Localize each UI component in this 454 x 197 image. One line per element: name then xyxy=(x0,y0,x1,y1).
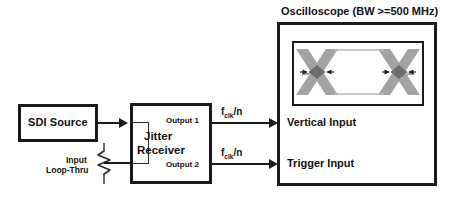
oscilloscope-display xyxy=(292,41,424,106)
jitter-receiver-label-line1: Jitter xyxy=(144,131,172,143)
oscilloscope-vertical-input-label: Vertical Input xyxy=(287,117,356,128)
oscilloscope-title: Oscilloscope (BW >=500 MHz) xyxy=(281,6,438,17)
sdi-source-label: SDI Source xyxy=(28,117,88,128)
jitter-receiver-label-line2: Receiver xyxy=(137,145,185,157)
receiver-loop-thru-bracket xyxy=(133,122,149,164)
oscilloscope-trigger-input-label: Trigger Input xyxy=(287,158,354,169)
eye-annotation-left: jitter xyxy=(302,73,309,76)
wire-output1-to-vertical xyxy=(212,122,274,124)
loop-thru-label-line2: Loop-Thru xyxy=(46,166,88,175)
eye-annotation-right: jitter xyxy=(407,73,414,76)
fclk-divisor: /n xyxy=(233,147,242,158)
receiver-output2-label: Output 2 xyxy=(166,161,199,169)
resistor-icon xyxy=(96,142,112,186)
arrowhead-source-to-receiver xyxy=(119,118,128,128)
fclk-divisor: /n xyxy=(233,106,242,117)
signal-label-trigger: fclk/n xyxy=(221,147,242,160)
wire-source-to-receiver xyxy=(98,122,121,124)
diagram-canvas: SDI Source Input Loop-Thru Jitter Receiv… xyxy=(0,0,454,197)
wire-output2-to-trigger xyxy=(212,163,274,165)
receiver-output1-label: Output 1 xyxy=(166,117,199,125)
eye-diagram xyxy=(294,43,422,104)
loop-thru-label-line1: Input xyxy=(66,156,87,165)
signal-label-vertical: fclk/n xyxy=(221,106,242,119)
